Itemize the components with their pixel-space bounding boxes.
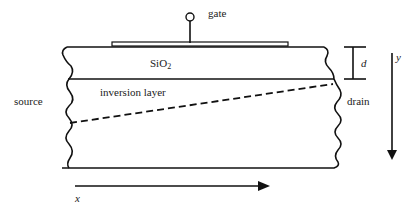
gate-terminal-icon: [186, 13, 194, 21]
inversion-layer-label: inversion layer: [100, 87, 166, 98]
drain-label: drain: [347, 96, 370, 107]
x-axis-label: x: [75, 193, 80, 204]
oxide-label: SiO2: [150, 58, 171, 71]
gate-electrode: [112, 42, 288, 46]
drain-boundary: [324, 47, 341, 168]
thickness-label: d: [361, 58, 367, 69]
mosfet-diagram: gate SiO2 inversion layer source drain d…: [0, 0, 418, 209]
y-axis-arrowhead-icon: [387, 150, 397, 160]
y-axis-label: y: [396, 52, 401, 63]
gate-label: gate: [208, 8, 226, 19]
oxide-label-subscript: 2: [167, 62, 171, 71]
source-boundary: [63, 47, 73, 168]
oxide-label-main: SiO: [150, 57, 167, 69]
source-label: source: [14, 96, 43, 107]
x-axis-arrowhead-icon: [258, 181, 270, 191]
